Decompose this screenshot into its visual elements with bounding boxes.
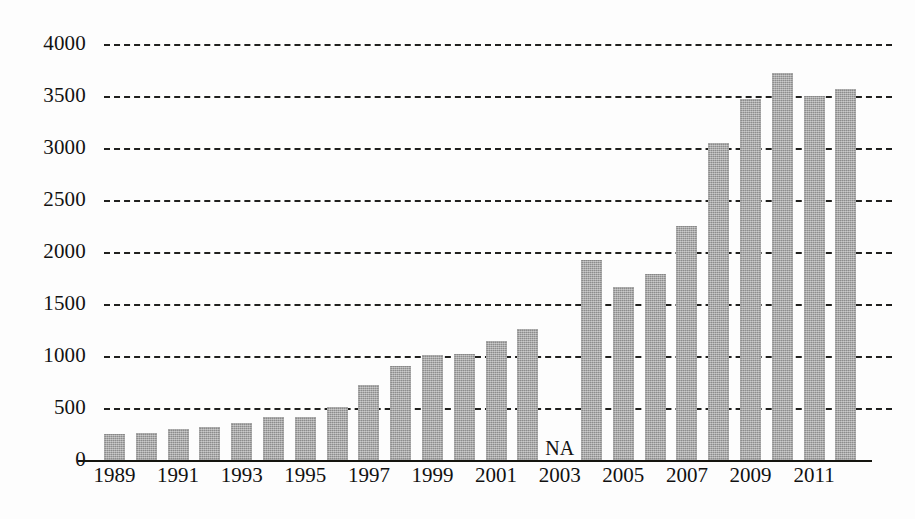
x-axis-tick-label: 2001 [461,463,531,487]
x-axis-line [78,460,872,462]
bar [358,385,379,460]
bar [772,73,793,460]
bar [295,417,316,460]
plot-area: NA [90,30,880,470]
bar [804,96,825,460]
y-axis-tick-label: 1000 [14,345,86,366]
bar [581,260,602,460]
x-axis-tick-label: 2005 [588,463,658,487]
y-axis-tick-label: 2000 [14,241,86,262]
x-axis-tick-label: 1999 [398,463,468,487]
x-axis-tick-label: 2011 [779,463,849,487]
bar [327,407,348,460]
x-axis-tick-label: 1997 [334,463,404,487]
y-axis-tick-label: 1500 [14,293,86,314]
bar [231,423,252,460]
y-axis-tick-label: 3000 [14,137,86,158]
bar [136,433,157,460]
y-axis-tick-label: 500 [14,397,86,418]
bars-group: NA [90,30,880,470]
bar [390,366,411,460]
bar [835,89,856,460]
bar [199,427,220,460]
y-axis: 05001000150020002500300035004000 [0,30,86,470]
bar [263,417,284,460]
x-axis-tick-label: 2009 [716,463,786,487]
bar [454,354,475,460]
x-axis-tick-label: 2003 [525,463,595,487]
bar [708,143,729,460]
x-axis-tick-label: 2007 [652,463,722,487]
y-axis-tick-label: 2500 [14,189,86,210]
bar [613,287,634,460]
bar [486,341,507,460]
x-axis-tick-label: 1989 [80,463,150,487]
x-axis-tick-label: 1995 [270,463,340,487]
x-axis-tick-label: 1991 [143,463,213,487]
x-axis: 1989199119931995199719992001200320052007… [0,463,915,503]
x-axis-tick-label: 1993 [207,463,277,487]
y-axis-tick-label: 4000 [14,33,86,54]
bar [168,429,189,460]
bar [422,355,443,460]
bar [104,434,125,460]
bar-chart: 05001000150020002500300035004000 NA 1989… [0,0,915,519]
bar [740,99,761,460]
bar [645,274,666,460]
y-axis-tick-label: 3500 [14,85,86,106]
bar [676,226,697,460]
